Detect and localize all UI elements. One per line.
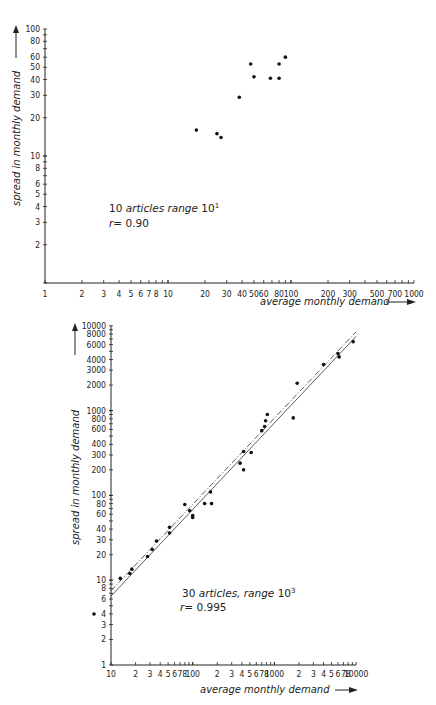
data-point	[238, 461, 242, 465]
top-y-axis-arrow-icon	[13, 25, 19, 58]
data-point	[337, 355, 341, 359]
bottom-x-tick-label: 2	[133, 669, 138, 679]
bottom-x-tick-label: 6	[172, 669, 177, 679]
top-x-tick-label: 5	[129, 289, 134, 299]
svg-text:10 articles range 101: 10 articles range 101	[109, 202, 219, 214]
bottom-x-tick-label: 5	[166, 669, 171, 679]
bottom-y-tick-label: 2	[101, 634, 106, 644]
top-x-tick-label: 1000	[404, 289, 424, 299]
data-point	[351, 340, 355, 344]
bottom-x-tick-label: 4	[239, 669, 244, 679]
top-data-points	[195, 55, 288, 139]
bottom-y-tick-label: 6000	[87, 340, 107, 350]
data-point	[242, 468, 246, 472]
data-point	[188, 509, 192, 513]
top-y-tick-label: 10	[30, 151, 40, 161]
bottom-y-tick-label: 300	[91, 450, 106, 460]
data-point	[249, 62, 253, 66]
bottom-x-tick-label: 3	[229, 669, 234, 679]
data-point	[295, 381, 299, 385]
bottom-y-tick-label: 3	[101, 620, 106, 630]
top-x-tick-label: 4	[117, 289, 122, 299]
data-point	[252, 75, 256, 79]
data-point	[146, 555, 150, 559]
data-point	[242, 450, 246, 454]
top-scatter-chart: 1234567810203040506080100200300500700100…	[11, 24, 424, 307]
data-point	[277, 76, 281, 80]
top-y-tick-label: 100	[25, 24, 40, 34]
bottom-x-tick-label: 100	[185, 669, 200, 679]
regression-line-dashed	[111, 332, 356, 591]
top-x-tick-label: 2	[80, 289, 85, 299]
top-x-tick-label: 40	[237, 289, 247, 299]
bottom-y-tick-label: 10000	[82, 321, 106, 331]
bottom-x-axis-title: average monthly demand	[200, 684, 330, 695]
top-y-tick-label: 5	[35, 189, 40, 199]
data-point	[269, 76, 273, 80]
bottom-x-tick-label: 3	[148, 669, 153, 679]
bottom-x-tick-label: 2	[297, 669, 302, 679]
svg-text:30 articles, range 103: 30 articles, range 103	[182, 587, 296, 599]
data-point	[336, 352, 340, 356]
top-x-tick-label: 6	[138, 289, 143, 299]
data-point	[266, 413, 270, 417]
top-annotation: 10 articles range 101 r= 0.90	[109, 202, 219, 229]
data-point	[238, 95, 242, 99]
bottom-x-tick-label: 5	[247, 669, 252, 679]
top-y-tick-label: 60	[30, 52, 40, 62]
bottom-x-tick-label: 2	[215, 669, 220, 679]
chart-canvas: 1234567810203040506080100200300500700100…	[0, 0, 436, 705]
bottom-x-tick-label: 5	[329, 669, 334, 679]
bottom-y-tick-label: 30	[96, 535, 106, 545]
top-x-tick-label: 700	[388, 289, 403, 299]
bottom-x-tick-label: 10000	[344, 669, 368, 679]
data-point	[168, 531, 172, 535]
data-point	[322, 363, 326, 367]
data-point	[210, 502, 214, 506]
bottom-x-axis-arrow-icon	[335, 687, 358, 693]
bottom-x-tick-label: 3	[311, 669, 316, 679]
bottom-y-tick-label: 1	[101, 660, 106, 670]
top-y-tick-label: 6	[35, 179, 40, 189]
top-y-tick-label: 20	[30, 113, 40, 123]
data-point	[260, 429, 264, 433]
bottom-y-tick-label: 10	[96, 575, 106, 585]
top-x-tick-label: 7	[147, 289, 152, 299]
bottom-x-tick-label: 4	[321, 669, 326, 679]
bottom-y-tick-label: 100	[91, 490, 106, 500]
data-point	[264, 419, 268, 423]
bottom-x-tick-label: 1000	[265, 669, 285, 679]
top-x-tick-label: 10	[163, 289, 173, 299]
top-y-tick-label: 50	[30, 62, 40, 72]
bottom-y-tick-label: 4000	[87, 355, 107, 365]
bottom-y-tick-label: 600	[91, 424, 106, 434]
data-point	[191, 514, 195, 518]
svg-text:r= 0.995: r= 0.995	[180, 601, 227, 613]
top-x-tick-label: 1	[43, 289, 48, 299]
bottom-y-tick-label: 20	[96, 550, 106, 560]
top-y-tick-label: 30	[30, 90, 40, 100]
data-point	[284, 55, 288, 59]
top-axes: 1234567810203040506080100200300500700100…	[25, 24, 423, 299]
bottom-y-tick-label: 6	[101, 594, 106, 604]
top-x-tick-label: 8	[154, 289, 159, 299]
bottom-x-tick-label: 4	[158, 669, 163, 679]
top-x-axis-title: average monthly demand	[260, 296, 390, 307]
data-point	[209, 490, 213, 494]
top-y-tick-label: 8	[35, 163, 40, 173]
top-x-tick-label: 50	[249, 289, 259, 299]
data-point	[168, 526, 172, 530]
bottom-y-tick-label: 4	[101, 609, 106, 619]
svg-text:r= 0.90: r= 0.90	[109, 217, 149, 229]
top-y-tick-label: 40	[30, 75, 40, 85]
data-point	[263, 425, 267, 429]
data-point	[119, 577, 123, 581]
data-point	[249, 451, 253, 455]
top-y-tick-label: 4	[35, 202, 40, 212]
bottom-x-tick-label: 10	[106, 669, 116, 679]
data-point	[203, 502, 207, 506]
bottom-x-tick-label: 6	[336, 669, 341, 679]
bottom-scatter-chart: 1023456781002345678100023456781000012346…	[70, 321, 368, 695]
bottom-axes: 1023456781002345678100023456781000012346…	[82, 321, 369, 679]
top-y-tick-label: 3	[35, 217, 40, 227]
